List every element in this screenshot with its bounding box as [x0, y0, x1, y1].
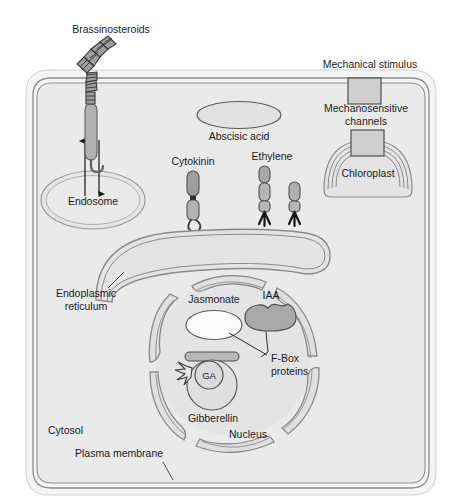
fbox-label-line2: proteins [271, 365, 308, 377]
plasma-membrane-label: Plasma membrane [75, 447, 163, 459]
iaa-label: IAA [263, 289, 280, 301]
mechanical-stimulus-label: Mechanical stimulus [323, 58, 418, 70]
nucleus-label: Nucleus [229, 428, 267, 440]
endosome-label: Endosome [68, 195, 118, 207]
fbox-protein [245, 304, 296, 331]
ga-label: GA [202, 370, 216, 381]
figure-canvas: Endosome [0, 0, 468, 501]
mechanosensitive-channels-label-line1: Mechanosensitive [324, 102, 408, 114]
mechanosensitive-channel-plasma-membrane [348, 78, 381, 104]
jasmonate-label: Jasmonate [188, 293, 240, 305]
gibberellin-label: Gibberellin [188, 412, 238, 424]
ethylene-receptor-b [289, 182, 300, 226]
mechanosensitive-channels-label-line2: channels [345, 115, 387, 127]
endoplasmic-reticulum-label-line1: Endoplasmic [56, 287, 116, 299]
ethylene-label: Ethylene [252, 150, 293, 162]
fbox-label-line1: F-Box [271, 352, 300, 364]
abscisic-acid-label: Abscisic acid [209, 130, 270, 142]
abscisic-acid-receptor [197, 102, 281, 129]
cytosol-label: Cytosol [48, 424, 83, 436]
chloroplast-label: Chloroplast [341, 167, 394, 179]
brassinosteroids-label: Brassinosteroids [72, 23, 150, 35]
endoplasmic-reticulum-label-line2: reticulum [65, 300, 108, 312]
mechanosensitive-channel-chloroplast [351, 130, 384, 156]
plant-cell-signaling-diagram: Endosome [0, 0, 468, 501]
cytokinin-label: Cytokinin [171, 155, 214, 167]
